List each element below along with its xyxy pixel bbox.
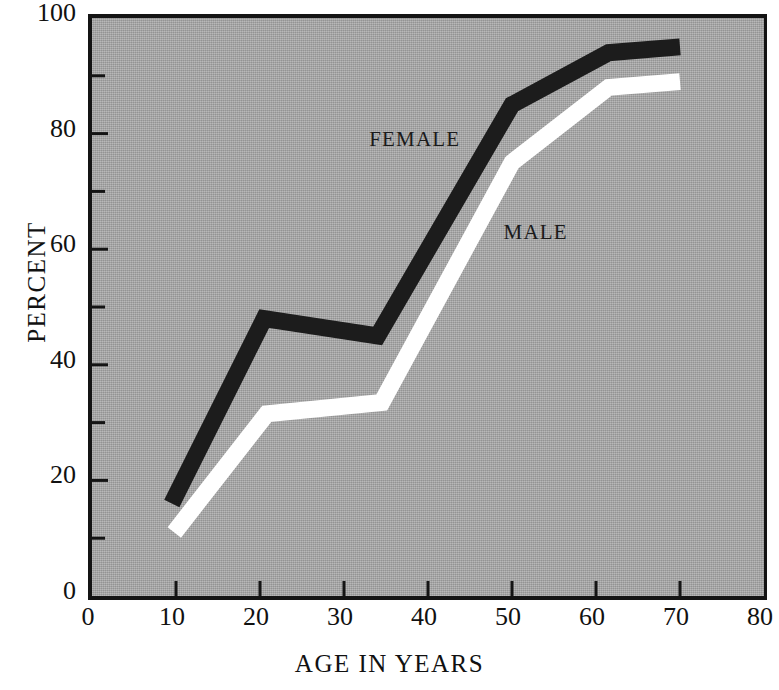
- chart-figure: 020406080100 PERCENT FEMALE MALE 0102030…: [0, 0, 779, 690]
- x-tick-label: 50: [478, 604, 538, 630]
- y-tick-label: 0: [10, 578, 76, 604]
- y-tick-label: 80: [10, 116, 76, 142]
- y-tick-label: 20: [10, 462, 76, 488]
- x-tick-label: 60: [562, 604, 622, 630]
- x-tick-label: 10: [142, 604, 202, 630]
- x-tick-label: 30: [310, 604, 370, 630]
- x-tick-label: 20: [226, 604, 286, 630]
- x-axis-title: AGE IN YEARS: [0, 650, 779, 678]
- y-axis-title: PERCENT: [23, 162, 51, 402]
- series-lines: [92, 18, 764, 596]
- x-tick-label: 0: [58, 604, 118, 630]
- x-tick-label: 80: [730, 604, 779, 630]
- x-tick-label: 70: [646, 604, 706, 630]
- plot-area: FEMALE MALE: [88, 14, 767, 600]
- y-tick-label: 100: [10, 0, 76, 26]
- series-label-female: FEMALE: [369, 127, 460, 152]
- x-axis-tick-labels: 01020304050607080: [0, 604, 779, 644]
- x-tick-label: 40: [394, 604, 454, 630]
- series-label-male: MALE: [504, 220, 568, 245]
